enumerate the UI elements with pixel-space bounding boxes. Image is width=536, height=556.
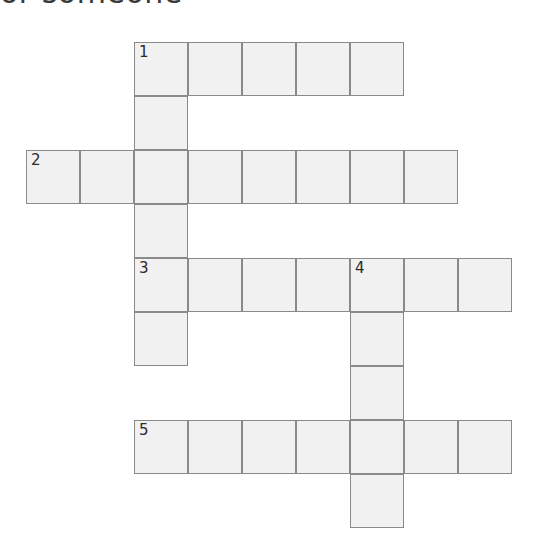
crossword-cell[interactable] [404, 150, 458, 204]
cell-number: 5 [139, 422, 149, 439]
crossword-cell[interactable] [404, 420, 458, 474]
crossword-cell[interactable] [80, 150, 134, 204]
crossword-cell[interactable] [242, 420, 296, 474]
crossword-cell[interactable] [350, 312, 404, 366]
crossword-cell[interactable]: 4 [350, 258, 404, 312]
crossword-cell[interactable] [458, 420, 512, 474]
crossword-cell[interactable] [350, 420, 404, 474]
crossword-cell[interactable] [350, 366, 404, 420]
crossword-cell[interactable]: 1 [134, 42, 188, 96]
cell-number: 2 [31, 152, 41, 169]
crossword-cell[interactable]: 3 [134, 258, 188, 312]
crossword-cell[interactable] [188, 258, 242, 312]
crossword-grid[interactable]: 12345 [0, 0, 536, 556]
crossword-cell[interactable] [134, 96, 188, 150]
crossword-cell[interactable] [350, 150, 404, 204]
crossword-cell[interactable] [134, 312, 188, 366]
crossword-cell[interactable] [188, 420, 242, 474]
crossword-cell[interactable] [134, 204, 188, 258]
crossword-cell[interactable] [188, 42, 242, 96]
crossword-cell[interactable] [458, 258, 512, 312]
crossword-cell[interactable]: 5 [134, 420, 188, 474]
crossword-cell[interactable] [296, 258, 350, 312]
crossword-cell[interactable] [296, 42, 350, 96]
crossword-cell[interactable] [188, 150, 242, 204]
crossword-cell[interactable] [242, 150, 296, 204]
crossword-cell[interactable]: 2 [26, 150, 80, 204]
crossword-cell[interactable] [134, 150, 188, 204]
cell-number: 4 [355, 260, 365, 277]
crossword-cell[interactable] [242, 258, 296, 312]
crossword-puzzle: or someone 12345 [0, 0, 536, 556]
crossword-cell[interactable] [296, 150, 350, 204]
crossword-cell[interactable] [350, 42, 404, 96]
cell-number: 3 [139, 260, 149, 277]
crossword-cell[interactable] [296, 420, 350, 474]
crossword-cell[interactable] [242, 42, 296, 96]
crossword-cell[interactable] [404, 258, 458, 312]
cell-number: 1 [139, 44, 149, 61]
crossword-cell[interactable] [350, 474, 404, 528]
